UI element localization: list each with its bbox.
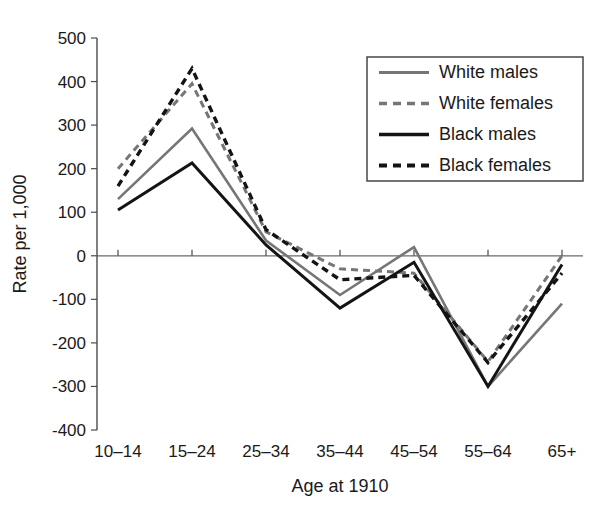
legend-label-black-males: Black males [439,124,536,144]
y-tick-label: -200 [52,334,86,353]
y-tick-label: 200 [58,160,86,179]
y-tick-label: -100 [52,290,86,309]
y-tick-label: 0 [77,247,86,266]
legend-label-white-females: White females [439,93,553,113]
x-axis-title: Age at 1910 [291,476,388,496]
y-tick-label: 400 [58,73,86,92]
y-tick-label: 500 [58,29,86,48]
x-tick-label: 35–44 [316,442,363,461]
y-axis-title: Rate per 1,000 [10,174,30,293]
chart-container: 5004003002001000-100-200-300-400 10–1415… [0,0,597,520]
y-tick-label: -300 [52,377,86,396]
legend-label-black-females: Black females [439,155,551,175]
x-tick-label: 55–64 [464,442,511,461]
x-tick-label: 45–54 [390,442,437,461]
x-tick-label: 65+ [548,442,577,461]
x-tick-label: 25–34 [242,442,289,461]
legend-label-white-males: White males [439,62,538,82]
x-tick-label: 15–24 [168,442,215,461]
y-tick-label: 300 [58,116,86,135]
y-tick-label: 100 [58,203,86,222]
x-tick-label: 10–14 [94,442,141,461]
line-chart: 5004003002001000-100-200-300-400 10–1415… [0,0,597,520]
y-tick-label: -400 [52,421,86,440]
chart-legend: White malesWhite femalesBlack malesBlack… [367,57,583,181]
